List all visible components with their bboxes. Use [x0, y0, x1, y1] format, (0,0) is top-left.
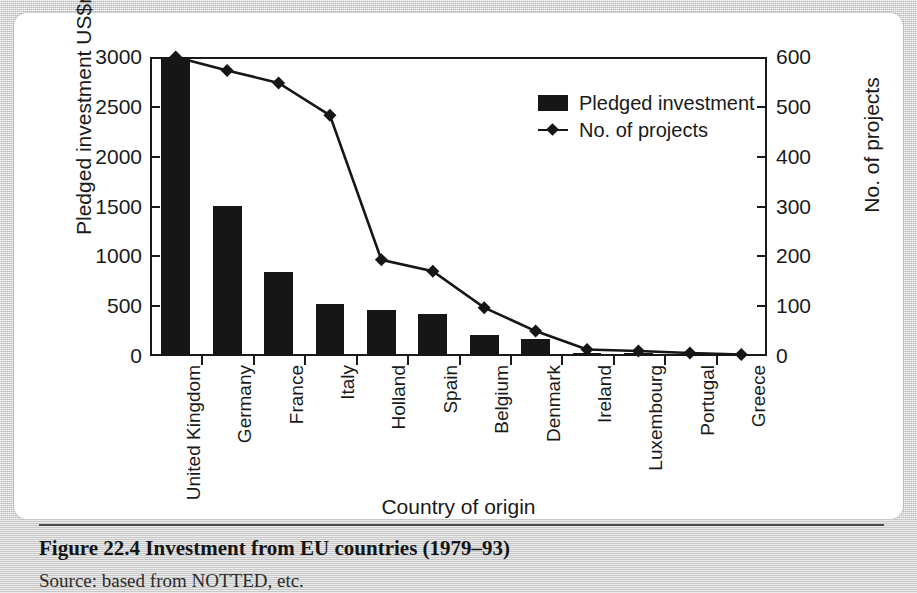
- x-axis-tick-mark: [561, 356, 563, 365]
- x-axis-tick-mark: [664, 356, 666, 365]
- x-axis-tick-mark: [201, 356, 203, 365]
- line-marker-france: [272, 76, 285, 89]
- line-marker-italy: [323, 109, 336, 122]
- y-axis-left-tick-label: 2500: [95, 95, 142, 119]
- x-category-label: France: [286, 365, 308, 424]
- y-axis-left-tick-label: 1500: [95, 195, 142, 219]
- x-axis-category-labels: United KingdomGermanyFranceItalyHollandS…: [150, 365, 767, 490]
- y-axis-right-tick-mark: [757, 106, 767, 108]
- y-axis-left-tick-label: 3000: [95, 45, 142, 69]
- caption-divider: [39, 524, 884, 526]
- y-axis-right-ticks: 0100200300400500600: [776, 57, 846, 356]
- x-axis-title: Country of origin: [150, 495, 767, 519]
- y-axis-left-tick-label: 500: [107, 294, 142, 318]
- y-axis-right-title: No. of projects: [860, 25, 884, 265]
- y-axis-right-tick-label: 300: [776, 195, 811, 219]
- y-axis-left-tick-mark: [150, 156, 160, 158]
- legend-line-diamond-icon: [538, 122, 568, 138]
- y-axis-left-tick-mark: [150, 305, 160, 307]
- figure-page: Pledged investment US$m No. of projects …: [0, 0, 917, 593]
- x-category-label: Denmark: [543, 365, 565, 442]
- y-axis-right-tick-label: 600: [776, 45, 811, 69]
- x-axis-tick-mark: [407, 356, 409, 365]
- y-axis-left-tick-label: 0: [130, 344, 142, 368]
- y-axis-right-tick-mark: [757, 206, 767, 208]
- y-axis-left-tick-mark: [150, 206, 160, 208]
- legend-label-bars: Pledged investment: [579, 93, 755, 113]
- line-marker-holland: [375, 253, 388, 266]
- x-category-label: Belgium: [491, 365, 513, 434]
- y-axis-left-tick-label: 1000: [95, 244, 142, 268]
- y-axis-right-tick-mark: [757, 305, 767, 307]
- x-category-label: Greece: [748, 365, 770, 427]
- x-category-label: Portugal: [697, 365, 719, 436]
- legend-bar-swatch-icon: [538, 95, 568, 111]
- line-marker-denmark: [529, 325, 542, 338]
- y-axis-right-tick-label: 400: [776, 145, 811, 169]
- figure-panel: Pledged investment US$m No. of projects …: [14, 13, 903, 519]
- legend-item-line: No. of projects: [538, 116, 755, 143]
- x-category-label: Spain: [440, 365, 462, 414]
- x-category-label: Luxembourg: [645, 365, 667, 471]
- x-axis-tick-mark: [253, 356, 255, 365]
- x-axis-tick-mark: [304, 356, 306, 365]
- y-axis-right-tick-mark: [757, 255, 767, 257]
- x-category-label: United Kingdom: [183, 365, 205, 500]
- x-category-label: Ireland: [594, 365, 616, 423]
- y-axis-right-tick-label: 0: [776, 344, 788, 368]
- x-category-label: Italy: [337, 365, 359, 400]
- x-axis-tick-mark: [356, 356, 358, 365]
- x-category-label: Germany: [234, 365, 256, 443]
- y-axis-left-tick-mark: [150, 255, 160, 257]
- x-category-label: Holland: [388, 365, 410, 429]
- chart-legend: Pledged investment No. of projects: [538, 89, 755, 143]
- y-axis-right-tick-label: 500: [776, 95, 811, 119]
- figure-caption: Figure 22.4 Investment from EU countries…: [39, 536, 510, 561]
- y-axis-right-tick-mark: [757, 156, 767, 158]
- legend-label-line: No. of projects: [579, 120, 708, 140]
- legend-item-bars: Pledged investment: [538, 89, 755, 116]
- y-axis-left-tick-label: 2000: [95, 145, 142, 169]
- line-marker-ireland: [581, 343, 594, 356]
- x-axis-tick-mark: [459, 356, 461, 365]
- figure-source-line: Source: based from NOTTED, etc.: [39, 570, 304, 592]
- line-marker-united-kingdom: [169, 51, 182, 64]
- y-axis-right-tick-label: 200: [776, 244, 811, 268]
- y-axis-right-tick-label: 100: [776, 294, 811, 318]
- x-axis-tick-mark: [716, 356, 718, 365]
- line-marker-germany: [221, 64, 234, 77]
- y-axis-left-ticks: 050010001500200025003000: [66, 57, 142, 356]
- y-axis-left-tick-mark: [150, 106, 160, 108]
- x-axis-tick-mark: [510, 356, 512, 365]
- x-axis-tick-mark: [613, 356, 615, 365]
